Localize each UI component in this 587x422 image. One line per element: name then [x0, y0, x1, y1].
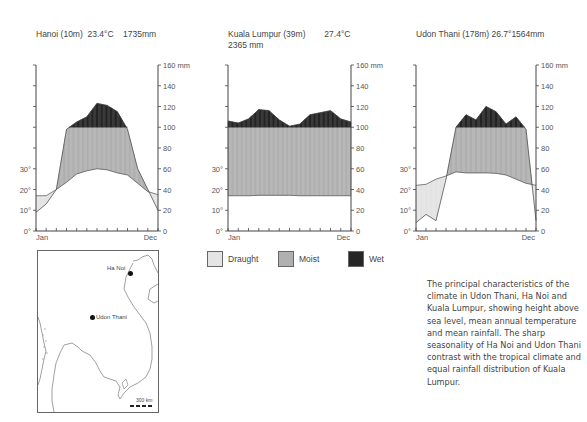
left-axis-label: 20° [20, 186, 31, 195]
climate-diagrams: 020406080100120140160 mm0°10°20°30°JanDe… [0, 0, 587, 250]
legend-label: Moist [299, 254, 319, 264]
right-axis-label: 80 [356, 144, 364, 153]
right-axis-label: 40 [163, 186, 171, 195]
x-label-dec: Dec [144, 233, 158, 242]
scale-bar-label: 300 km [136, 397, 152, 403]
climate-chart-kuala-lumpur: 020406080100120140160 mm0°10°20°30°JanDe… [212, 61, 383, 242]
map-outline [38, 251, 158, 412]
scale-bar [130, 405, 154, 407]
left-axis-label: 0° [216, 227, 223, 236]
right-axis-label: 20 [163, 206, 171, 215]
x-label-dec: Dec [522, 233, 536, 242]
right-axis-label: 160 mm [356, 61, 383, 70]
right-axis-label: 160 mm [541, 61, 568, 70]
right-axis-label: 100 [541, 123, 554, 132]
left-axis-label: 20° [212, 186, 223, 195]
right-axis-label: 40 [541, 186, 549, 195]
right-axis-label: 0 [163, 227, 167, 236]
right-axis-label: 160 mm [163, 61, 190, 70]
x-label-jan: Jan [228, 233, 240, 242]
moist-swatch [278, 251, 294, 267]
right-axis-label: 0 [541, 227, 545, 236]
right-axis-label: 100 [163, 123, 176, 132]
legend-label: Wet [369, 254, 384, 264]
right-axis-label: 80 [541, 144, 549, 153]
legend-moist: Moist [278, 251, 319, 267]
right-axis-label: 20 [356, 206, 364, 215]
right-axis-label: 20 [541, 206, 549, 215]
legend-label: Draught [228, 254, 258, 264]
right-axis-label: 60 [356, 165, 364, 174]
left-axis-label: 30° [20, 165, 31, 174]
left-axis-label: 10° [20, 206, 31, 215]
city-label-udon-thani: Udon Thani [96, 314, 127, 320]
right-axis-label: 120 [356, 103, 369, 112]
x-label-jan: Jan [416, 233, 428, 242]
right-axis-label: 140 [541, 82, 554, 91]
right-axis-label: 0 [356, 227, 360, 236]
figure-caption: The principal characteristics of the cli… [427, 278, 587, 388]
left-axis-label: 10° [212, 206, 223, 215]
draught-swatch [207, 251, 223, 267]
city-marker-udon-thani [90, 315, 95, 320]
right-axis-label: 120 [541, 103, 554, 112]
left-axis-label: 0° [24, 227, 31, 236]
city-label-ha-noi: Ha Noi [107, 265, 125, 271]
legend-wet: Wet [348, 251, 384, 267]
right-axis-label: 100 [356, 123, 369, 132]
right-axis-label: 140 [356, 82, 369, 91]
left-axis-label: 20° [400, 186, 411, 195]
left-axis-label: 0° [404, 227, 411, 236]
climate-chart-udon-thani: 020406080100120140160 mm0°10°20°30°JanDe… [400, 61, 568, 242]
left-axis-label: 30° [400, 165, 411, 174]
location-map: Ha Noi Udon Thani 300 km [37, 250, 159, 413]
right-axis-label: 60 [541, 165, 549, 174]
left-axis-label: 30° [212, 165, 223, 174]
right-axis-label: 60 [163, 165, 171, 174]
city-marker-ha-noi [128, 271, 133, 276]
right-axis-label: 80 [163, 144, 171, 153]
legend-draught: Draught [207, 251, 258, 267]
right-axis-label: 120 [163, 103, 176, 112]
climate-chart-hanoi: 020406080100120140160 mm0°10°20°30°JanDe… [20, 61, 190, 242]
right-axis-label: 40 [356, 186, 364, 195]
x-label-dec: Dec [337, 233, 351, 242]
x-label-jan: Jan [36, 233, 48, 242]
wet-swatch [348, 251, 364, 267]
right-axis-label: 140 [163, 82, 176, 91]
left-axis-label: 10° [400, 206, 411, 215]
